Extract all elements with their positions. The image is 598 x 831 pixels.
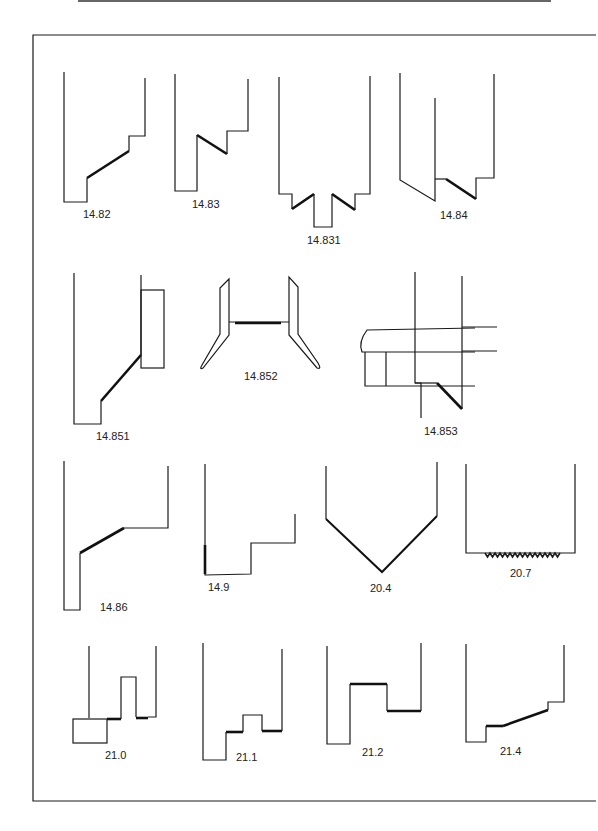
label-21-4: 21.4 <box>500 745 521 757</box>
profile-14-9: 14.9 <box>205 464 295 593</box>
profile-20-4: 20.4 <box>326 462 437 594</box>
profile-21-1: 21.1 <box>203 643 282 763</box>
label-14-851: 14.851 <box>96 430 130 442</box>
profile-21-0: 21.0 <box>73 646 156 761</box>
label-20-4: 20.4 <box>370 582 391 594</box>
profile-21-4: 21.4 <box>466 644 564 757</box>
label-21-0: 21.0 <box>105 749 126 761</box>
label-14-83: 14.83 <box>192 198 220 210</box>
label-14-86: 14.86 <box>100 601 128 613</box>
profile-14-831: 14.831 <box>279 76 370 246</box>
frame-border <box>33 35 596 801</box>
label-21-2: 21.2 <box>362 746 383 758</box>
profile-diagram: 14.82 14.83 14.831 14.84 14.851 14.852 <box>0 0 598 831</box>
label-14-82: 14.82 <box>83 208 111 220</box>
label-14-9: 14.9 <box>208 581 229 593</box>
label-14-831: 14.831 <box>307 234 341 246</box>
profile-21-2: 21.2 <box>327 643 421 758</box>
label-14-84: 14.84 <box>440 209 468 221</box>
profile-14-83: 14.83 <box>175 74 248 210</box>
profile-14-851: 14.851 <box>74 273 164 442</box>
label-21-1: 21.1 <box>236 751 257 763</box>
profile-14-86: 14.86 <box>64 461 168 613</box>
label-20-7: 20.7 <box>510 567 531 579</box>
profile-14-82: 14.82 <box>64 72 145 220</box>
profile-14-853: 14.853 <box>361 272 497 437</box>
profile-20-7: 20.7 <box>466 464 575 579</box>
label-14-852: 14.852 <box>244 370 278 382</box>
label-14-853: 14.853 <box>424 425 458 437</box>
profile-14-852: 14.852 <box>201 277 320 382</box>
profile-14-84: 14.84 <box>400 73 494 221</box>
